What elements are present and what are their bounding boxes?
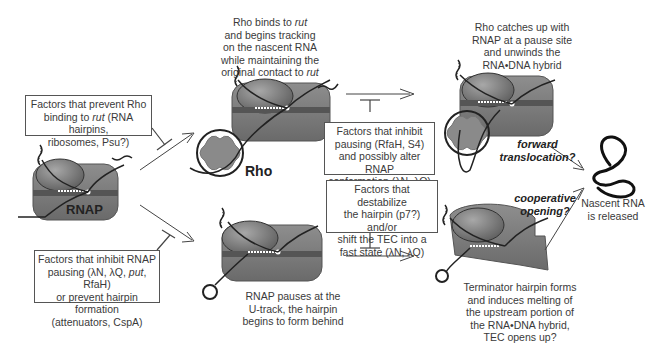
box-text: binding to [44, 111, 92, 123]
mechanism-text: forward [517, 138, 557, 150]
caption-text: TEC opens up? [484, 331, 557, 343]
caption-text: while maintaining the [221, 54, 319, 66]
rut-italic: rut [92, 111, 104, 123]
caption-text: is released [588, 210, 639, 222]
box-text: (attenuators, CspA) [51, 316, 142, 328]
cooperative-opening-label: cooperative opening? [505, 192, 585, 218]
caption-text: the RNA•DNA hybrid, [470, 319, 569, 331]
caption-rho-binding: Rho binds to rut and begins tracking on … [205, 16, 335, 79]
caption-text: and begins tracking [224, 29, 315, 41]
forward-translocation-label: forward translocation? [490, 138, 585, 164]
caption-text: U-track, the hairpin [249, 303, 338, 315]
mechanism-text: opening? [520, 205, 570, 217]
caption-released: Nascent RNA is released [578, 197, 648, 222]
rut-italic: rut [306, 66, 318, 78]
box-text: pausing (λN, λQ, [48, 266, 129, 278]
box-text: Factors that prevent Rho [31, 98, 147, 110]
box-text: shift the TEC into a [337, 233, 426, 245]
caption-text: Nascent RNA [581, 197, 645, 209]
box-destabilize-hairpin: Factors that destabilize the hairpin (p7… [326, 180, 438, 233]
box-text: the hairpin (p7?) and/or [344, 208, 420, 233]
caption-hairpin-forms: Terminator hairpin forms and induces mel… [455, 281, 585, 344]
caption-text: RNA•DNA hybrid [483, 59, 562, 71]
rut-italic: rut [295, 16, 307, 28]
released-rna [594, 137, 634, 197]
caption-text: on the nascent RNA [223, 41, 317, 53]
box-text: and possibly alter RNAP [339, 150, 421, 175]
caption-text: the upstream portion of [466, 306, 574, 318]
mechanism-text: translocation? [500, 151, 576, 163]
box-text: ribosomes, Psu?) [48, 136, 130, 148]
caption-text: and unwinds the [484, 46, 560, 58]
box-inhibit-pausing-rho: Factors that inhibit pausing (RfaH, S4) … [324, 122, 435, 175]
box-text: fast state (λN, λQ) [340, 246, 425, 258]
caption-text: Rho binds to [233, 16, 295, 28]
caption-text: begins to form behind [243, 315, 344, 327]
box-inhibit-rnap-pausing: Factors that inhibit RNAP pausing (λN, λ… [34, 250, 160, 303]
rnap-label: RNAP [66, 202, 103, 217]
caption-text: Rho catches up with [475, 21, 570, 33]
caption-text: Terminator hairpin forms [463, 281, 576, 293]
caption-text: RNAP at a pause site [472, 34, 572, 46]
caption-rho-catchup: Rho catches up with RNAP at a pause site… [462, 21, 582, 71]
box-text: Factors that inhibit [337, 125, 423, 137]
caption-text: and induces melting of [467, 294, 572, 306]
box-text: Factors that destabilize [354, 183, 409, 208]
rnap-initial: RNAP [18, 145, 132, 220]
rnap-pause [203, 208, 322, 299]
rnap-rho-binding [190, 66, 338, 176]
box-text: pausing (RfaH, S4) [335, 138, 424, 150]
caption-text: original contact to [221, 66, 306, 78]
put-italic: put [129, 266, 144, 278]
caption-rnap-pause: RNAP pauses at the U-track, the hairpin … [238, 290, 348, 328]
box-text: Factors that inhibit RNAP [38, 253, 156, 265]
rho-label: Rho [245, 163, 272, 179]
caption-text: RNAP pauses at the [246, 290, 341, 302]
box-prevent-rho-binding: Factors that prevent Rho binding to rut … [25, 95, 152, 136]
mechanism-text: cooperative [514, 192, 576, 204]
